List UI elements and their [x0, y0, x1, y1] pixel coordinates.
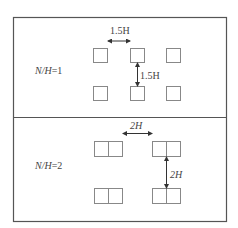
horizontal-spacing-label: 2H: [130, 120, 143, 131]
square-unit: [167, 49, 181, 63]
vertical-spacing-label: 2H: [170, 169, 183, 180]
horizontal-spacing-label: 1.5H: [110, 25, 130, 36]
square-unit: [131, 49, 145, 63]
outer-frame: [14, 18, 227, 222]
square-unit: [94, 49, 108, 63]
square-unit: [167, 87, 181, 101]
square-unit: [94, 87, 108, 101]
panel-n-h-1: N/H=1 1.5H 1.5H: [34, 25, 181, 101]
panel-2-label: N/H=2: [34, 160, 62, 171]
square-unit: [131, 87, 145, 101]
vertical-spacing-label: 1.5H: [140, 70, 160, 81]
panel-1-label: N/H=1: [34, 65, 62, 76]
spacing-diagram: N/H=1 1.5H 1.5H N/H=2 2H 2H: [0, 0, 238, 228]
panel-n-h-2: N/H=2 2H 2H: [34, 120, 183, 204]
double-square-grid: [95, 142, 181, 204]
